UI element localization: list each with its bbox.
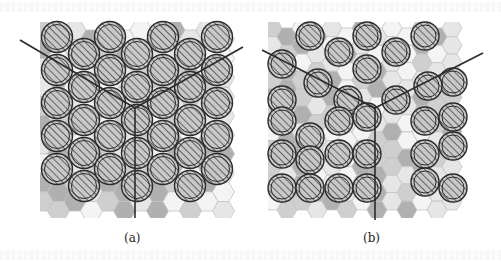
disk — [42, 55, 73, 86]
panel-b — [262, 19, 483, 220]
disk — [439, 174, 467, 202]
disk — [268, 107, 296, 135]
disk — [175, 105, 206, 136]
disk — [175, 138, 206, 169]
disk — [202, 55, 233, 86]
disk — [296, 146, 324, 174]
disk — [202, 22, 233, 53]
disk — [353, 22, 381, 50]
disk — [42, 22, 73, 53]
disk — [42, 154, 73, 185]
disk — [95, 121, 126, 152]
disk — [95, 154, 126, 185]
disk — [296, 22, 324, 50]
panel-a — [20, 21, 243, 221]
disk — [42, 88, 73, 119]
disk — [353, 55, 381, 83]
disk — [325, 38, 353, 66]
disk — [148, 22, 179, 53]
figure — [0, 0, 501, 262]
disk — [122, 171, 153, 202]
disk — [325, 107, 353, 135]
disk — [95, 88, 126, 119]
panel-a-disks — [42, 22, 233, 202]
panel-b-caption: (b) — [363, 231, 380, 245]
disk — [325, 140, 353, 168]
disk — [411, 22, 439, 50]
disk — [411, 107, 439, 135]
disk — [148, 55, 179, 86]
disk — [353, 140, 381, 168]
disk — [268, 50, 296, 78]
disk — [175, 171, 206, 202]
disk — [202, 154, 233, 185]
disk — [353, 174, 381, 202]
disk — [202, 88, 233, 119]
disk — [148, 121, 179, 152]
disk — [42, 121, 73, 152]
disk — [439, 68, 467, 96]
disk — [411, 168, 439, 196]
disk — [411, 140, 439, 168]
disk — [439, 132, 467, 160]
disk — [95, 55, 126, 86]
disk — [95, 22, 126, 53]
disk — [69, 171, 100, 202]
disk — [148, 154, 179, 185]
disk — [202, 121, 233, 152]
disk — [268, 174, 296, 202]
disk — [382, 38, 410, 66]
disk — [268, 140, 296, 168]
disk — [439, 103, 467, 131]
panel-a-caption: (a) — [124, 231, 141, 245]
disk — [382, 86, 410, 114]
disk — [296, 174, 324, 202]
disk — [325, 174, 353, 202]
disk — [175, 39, 206, 70]
